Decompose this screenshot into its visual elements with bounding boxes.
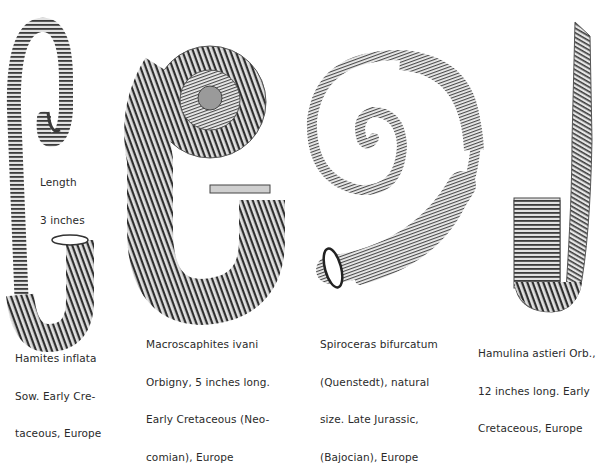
caption-line: size. Late Jurassic, [320, 413, 438, 426]
spiroceras-bifurcatum-fossil [312, 55, 476, 289]
caption-line: (Quenstedt), natural [320, 376, 438, 389]
caption-line: Hamulina astieri Orb., [478, 347, 596, 360]
annotation-line: 3 inches [40, 214, 85, 227]
caption-line: taceous, Europe [15, 427, 101, 440]
caption-line: Orbigny, 5 inches long. [146, 376, 270, 389]
macroscaphites-caption: Macroscaphites ivani Orbigny, 5 inches l… [146, 313, 270, 467]
macroscaphites-ivani-fossil [147, 46, 270, 302]
spiroceras-caption: Spiroceras bifurcatum (Quenstedt), natur… [320, 313, 438, 467]
caption-line: Early Cretaceous (Neo- [146, 413, 270, 426]
caption-line: 12 inches long. Early [478, 385, 596, 398]
caption-line: Spiroceras bifurcatum [320, 338, 438, 351]
annotation-line: Length [40, 176, 85, 189]
caption-line: Macroscaphites ivani [146, 338, 270, 351]
caption-line: Cretaceous, Europe [478, 422, 596, 435]
hamulina-astieri-fossil [514, 22, 592, 312]
hamulina-caption: Hamulina astieri Orb., 12 inches long. E… [478, 322, 596, 447]
caption-line: (Bajocian), Europe [320, 451, 438, 464]
caption-line: Sow. Early Cre- [15, 390, 101, 403]
hamites-caption: Hamites inflata Sow. Early Cre- taceous,… [15, 327, 101, 452]
hamites-length-annotation: Length 3 inches [40, 151, 85, 239]
caption-line: Hamites inflata [15, 352, 101, 365]
caption-line: comian), Europe [146, 451, 270, 464]
